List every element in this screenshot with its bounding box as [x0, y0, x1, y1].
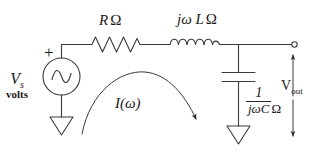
output-voltage-label: Vout: [281, 79, 303, 96]
resistor-symbol-text: R: [99, 12, 108, 28]
capacitor-impedance-fraction: 1 jωC: [246, 86, 271, 116]
current-label: I(ω): [115, 96, 141, 111]
circuit-diagram: RΩ jω LΩ + Vs volts I(ω) 1 jωC Ω Vout: [0, 0, 317, 156]
polarity-plus-label: +: [44, 44, 54, 61]
capacitor-unit-text: Ω: [271, 102, 281, 116]
output-symbol-text: V: [281, 78, 291, 93]
inductor-symbol: [170, 39, 220, 44]
resistor-symbol: [88, 37, 170, 52]
capacitor-denominator-text: jωC: [246, 102, 271, 117]
capacitor-label: 1 jωC Ω: [246, 86, 281, 116]
circuit-schematic-canvas: [0, 0, 317, 156]
ground-left-symbol: [50, 117, 73, 135]
inductor-symbol-text: jω L: [177, 11, 204, 27]
resistor-label: RΩ: [99, 13, 121, 28]
output-subscript-text: out: [291, 86, 303, 96]
inductor-label: jω LΩ: [177, 12, 217, 27]
inductor-unit-text: Ω: [204, 11, 217, 27]
capacitor-symbol: [222, 73, 255, 82]
source-symbol-text: V: [10, 70, 20, 87]
ac-source-symbol: [43, 58, 80, 95]
source-label: Vs volts: [6, 71, 28, 100]
ground-right-symbol: [227, 126, 250, 144]
output-terminal-icon: [292, 42, 297, 47]
resistor-unit-text: Ω: [108, 12, 121, 28]
source-units-text: volts: [6, 89, 28, 100]
wire-source-to-top-rail: [62, 45, 89, 59]
capacitor-numerator-text: 1: [246, 86, 271, 101]
